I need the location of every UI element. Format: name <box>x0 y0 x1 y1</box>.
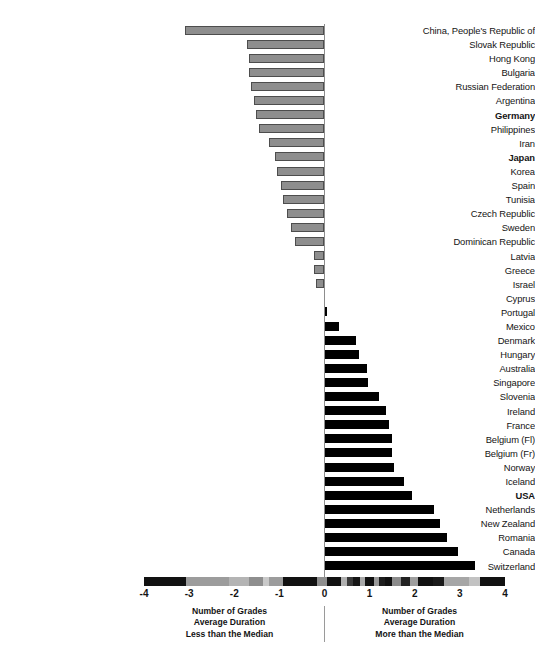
bar-positive <box>325 463 394 472</box>
right-caption-line: Average Duration <box>335 617 505 629</box>
bar-row-label: Bulgaria <box>385 67 535 78</box>
axis-band-segment <box>410 577 419 586</box>
bar-row-label: Ireland <box>385 405 535 416</box>
x-tick-label: -1 <box>275 588 284 599</box>
bar-row: Germany <box>0 109 535 123</box>
bar-row: Cyprus <box>0 292 535 306</box>
caption-center-divider <box>324 606 325 642</box>
x-tick-label: 1 <box>367 588 373 599</box>
left-caption-line: Number of Grades <box>145 606 315 618</box>
bar-negative <box>314 265 324 274</box>
bar-row-label: Slovak Republic <box>385 39 535 50</box>
bar-negative <box>314 251 324 260</box>
bar-negative <box>316 279 325 288</box>
bar-negative <box>277 167 324 176</box>
bar-row-label: Spain <box>385 180 535 191</box>
axis-decorative-band <box>144 577 505 586</box>
left-caption-line: Average Duration <box>145 617 315 629</box>
bar-row: Slovenia <box>0 390 535 404</box>
bar-row-label: Hong Kong <box>385 53 535 64</box>
bar-negative <box>256 110 325 119</box>
bar-positive <box>325 477 405 486</box>
bar-row: New Zealand <box>0 517 535 531</box>
bar-row: Portugal <box>0 306 535 320</box>
bar-row-label: Norway <box>385 461 535 472</box>
bar-row-label: Cyprus <box>385 292 535 303</box>
left-axis-caption: Number of GradesAverage DurationLess tha… <box>145 606 315 641</box>
right-axis-caption: Number of GradesAverage DurationMore tha… <box>335 606 505 641</box>
bar-row: Japan <box>0 151 535 165</box>
x-tick-label: 4 <box>502 588 508 599</box>
bar-row-label: Portugal <box>385 306 535 317</box>
bar-row: Czech Republic <box>0 207 535 221</box>
bar-row: Israel <box>0 278 535 292</box>
left-caption-line: Less than the Median <box>145 629 315 641</box>
bar-row-label: France <box>385 419 535 430</box>
bar-row: Korea <box>0 165 535 179</box>
x-tick-label: 0 <box>322 588 328 599</box>
bar-row: Netherlands <box>0 503 535 517</box>
bar-row-label: Belgium (Fl) <box>385 433 535 444</box>
bar-positive <box>325 322 340 331</box>
axis-band-segment <box>418 577 432 586</box>
bar-chart-figure: China, People's Republic ofSlovak Republ… <box>0 0 535 648</box>
bar-negative <box>185 26 325 35</box>
bar-negative <box>247 40 325 49</box>
bar-row: Slovak Republic <box>0 38 535 52</box>
bar-positive <box>325 448 393 457</box>
bar-positive <box>325 505 435 514</box>
bar-positive <box>325 519 440 528</box>
axis-band-segment <box>327 577 340 586</box>
bar-row-label: China, People's Republic of <box>385 25 535 36</box>
bar-row: Denmark <box>0 334 535 348</box>
axis-band-segment <box>433 577 444 586</box>
bar-positive <box>325 336 357 345</box>
bar-positive <box>325 378 369 387</box>
bar-positive <box>325 491 413 500</box>
bar-row-label: Denmark <box>385 335 535 346</box>
bar-negative <box>259 124 324 133</box>
bar-row-label: Latvia <box>385 250 535 261</box>
bar-row: Norway <box>0 461 535 475</box>
bar-row: Greece <box>0 264 535 278</box>
bar-negative <box>254 96 324 105</box>
bar-row-label: Tunisia <box>385 194 535 205</box>
plot-area: China, People's Republic ofSlovak Republ… <box>0 0 535 540</box>
axis-band-segment <box>249 577 263 586</box>
bar-row-label: Iran <box>385 137 535 148</box>
bar-negative <box>283 195 325 204</box>
bar-positive <box>325 350 359 359</box>
bar-positive <box>325 420 389 429</box>
bar-rows: China, People's Republic ofSlovak Republ… <box>0 24 535 574</box>
bar-row-label: Sweden <box>385 222 535 233</box>
bar-positive <box>325 406 386 415</box>
bar-row: Sweden <box>0 221 535 235</box>
bar-row: Belgium (Fl) <box>0 433 535 447</box>
bar-row-label: Germany <box>385 109 535 120</box>
axis-band-segment <box>469 577 480 586</box>
bar-row: China, People's Republic of <box>0 24 535 38</box>
x-tick-label: -3 <box>185 588 194 599</box>
bar-row-label: Japan <box>385 151 535 162</box>
bar-negative <box>269 138 325 147</box>
bar-positive <box>325 533 448 542</box>
x-tick-label: -4 <box>140 588 149 599</box>
bar-positive <box>325 392 379 401</box>
x-tick-label: 2 <box>412 588 418 599</box>
bar-row: Romania <box>0 531 535 545</box>
right-caption-line: More than the Median <box>335 629 505 641</box>
x-tick-label: 3 <box>457 588 463 599</box>
bar-row-label: Mexico <box>385 320 535 331</box>
bar-row-label: Slovenia <box>385 391 535 402</box>
bar-row: Mexico <box>0 320 535 334</box>
axis-band-segment <box>401 577 410 586</box>
bar-row-label: Israel <box>385 278 535 289</box>
bar-row: Hungary <box>0 348 535 362</box>
bar-row: Iceland <box>0 475 535 489</box>
bar-row: Iran <box>0 137 535 151</box>
bar-negative <box>281 181 324 190</box>
bar-negative <box>287 209 324 218</box>
bar-negative <box>295 237 324 246</box>
bar-negative <box>249 54 325 63</box>
bar-row-label: Russian Federation <box>385 81 535 92</box>
